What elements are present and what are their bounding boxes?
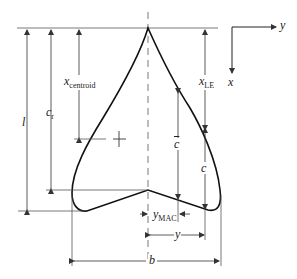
x-axis-label: x [228,76,233,88]
wing-outline-icon [72,28,221,211]
label-l: l [22,116,25,128]
label-y: y [174,228,181,240]
label-x-centroid: xcentroid [64,75,96,90]
label-x-le: xLE [199,75,214,90]
label-c: c [201,162,206,174]
label-c-r: cr [46,106,54,121]
wing-planform-figure: y x l cr xcentroid xLE c c yMAC y b [0,0,297,279]
y-axis-label: y [280,19,285,31]
label-c-bar: c [174,138,179,150]
planform-drawing [0,0,297,279]
label-b: b [148,254,156,266]
label-y-mac: yMAC [153,208,177,223]
